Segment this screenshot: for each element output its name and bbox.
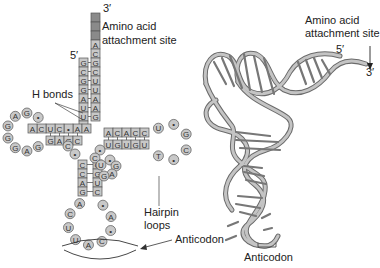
three-prime-label-3d: 3′ (366, 66, 374, 78)
base-pair-rung (264, 228, 272, 230)
amino-acid-site-label-3d-1: Amino acid (305, 14, 359, 26)
base-pair-rung (298, 62, 306, 84)
base-pair-rung (238, 196, 262, 198)
base-pair-rung (254, 56, 262, 92)
base-pair-rung (322, 60, 330, 74)
base-pair-rung (228, 222, 238, 226)
amino-acid-site-label-3d-2: attachment site (305, 27, 380, 39)
five-prime-label-3d: 5′ (336, 43, 344, 55)
base-pair-rung (314, 58, 322, 78)
base-pair-rung (306, 60, 314, 82)
base-pair-rung (262, 214, 270, 218)
base-pair-rung (236, 204, 260, 208)
anticodon-label-3d: Anticodon (244, 251, 293, 263)
base-pair-rung (226, 236, 236, 240)
